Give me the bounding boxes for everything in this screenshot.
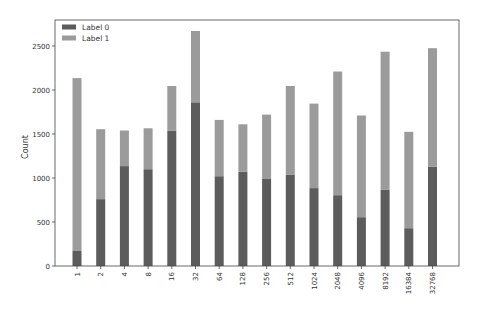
x-tick-label: 32 (192, 272, 200, 281)
bar-segment-label-0 (404, 228, 413, 266)
bar-segment-label-0 (73, 251, 82, 266)
bar-segment-label-1 (381, 52, 390, 190)
x-tick-label: 4096 (358, 271, 366, 289)
x-tick-label: 16384 (405, 271, 413, 294)
x-tick-label: 64 (216, 271, 224, 280)
bar-segment-label-1 (262, 115, 271, 179)
x-tick-label: 2 (97, 272, 105, 276)
bar-segment-label-0 (333, 195, 342, 266)
bar-segment-label-1 (357, 116, 366, 218)
bar-segment-label-1 (333, 72, 342, 196)
bars-group (73, 31, 438, 266)
y-axis-ticks: 05001000150020002500 (32, 43, 55, 271)
bar-segment-label-1 (286, 86, 295, 175)
bar-segment-label-1 (167, 86, 176, 130)
chart-canvas: 1248163264128256512102420484096819216384… (0, 0, 482, 312)
bar-segment-label-0 (167, 131, 176, 267)
bar-segment-label-0 (120, 166, 129, 266)
x-tick-label: 1024 (311, 271, 319, 289)
y-tick-label: 2000 (32, 87, 50, 95)
y-tick-label: 500 (37, 219, 50, 227)
x-tick-label: 128 (239, 272, 247, 285)
bar-segment-label-1 (238, 124, 247, 172)
bar-segment-label-0 (144, 169, 153, 266)
bar-segment-label-1 (96, 129, 105, 199)
y-axis-label: Count (21, 135, 30, 159)
bar-segment-label-0 (191, 102, 200, 266)
legend-swatch-0 (62, 25, 76, 30)
legend: Label 0Label 1 (62, 23, 110, 43)
legend-label-0: Label 0 (82, 23, 110, 32)
legend-label-1: Label 1 (82, 34, 110, 43)
x-tick-label: 4 (121, 271, 129, 276)
bar-segment-label-0 (428, 167, 437, 266)
x-tick-label: 8 (145, 272, 153, 276)
y-tick-label: 0 (46, 263, 50, 271)
bar-segment-label-1 (73, 78, 82, 251)
stacked-bar-chart: 1248163264128256512102420484096819216384… (0, 0, 482, 312)
bar-segment-label-0 (381, 190, 390, 266)
bar-segment-label-1 (404, 132, 413, 228)
bar-segment-label-0 (286, 175, 295, 266)
x-tick-label: 2048 (334, 272, 342, 290)
bar-segment-label-1 (310, 104, 319, 189)
bar-segment-label-0 (96, 199, 105, 266)
legend-swatch-1 (62, 36, 76, 41)
y-tick-label: 1000 (32, 175, 50, 183)
bar-segment-label-1 (191, 31, 200, 102)
bar-segment-label-0 (215, 176, 224, 266)
x-tick-label: 512 (287, 272, 295, 285)
bar-segment-label-1 (120, 131, 129, 167)
bar-segment-label-0 (262, 178, 271, 266)
bar-segment-label-0 (238, 172, 247, 266)
bar-segment-label-1 (144, 128, 153, 169)
bar-segment-label-1 (428, 48, 437, 166)
x-tick-label: 32768 (429, 272, 437, 294)
x-tick-label: 256 (263, 271, 271, 285)
x-tick-label: 8192 (382, 272, 390, 290)
y-tick-label: 2500 (32, 43, 50, 51)
y-tick-label: 1500 (32, 131, 50, 139)
bar-segment-label-0 (357, 217, 366, 266)
bar-segment-label-1 (215, 120, 224, 176)
x-tick-label: 1 (74, 272, 82, 276)
x-axis-ticks: 1248163264128256512102420484096819216384… (74, 266, 438, 294)
plot-frame (55, 20, 459, 266)
bar-segment-label-0 (310, 188, 319, 266)
x-tick-label: 16 (168, 271, 176, 280)
